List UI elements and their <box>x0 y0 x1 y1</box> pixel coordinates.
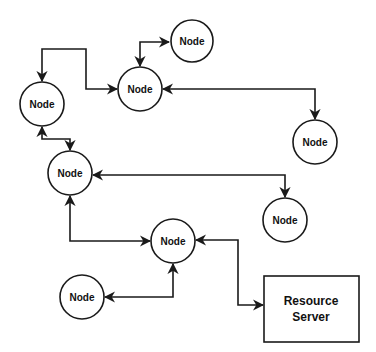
edge-center-resource-server <box>196 240 263 305</box>
resource-server: Resource Server <box>264 276 359 342</box>
node-label: Node <box>128 84 153 95</box>
node-label: Node <box>58 168 83 179</box>
node-upper-mid: Node <box>118 67 162 111</box>
edge-mid-left-mid-right <box>93 175 285 197</box>
node-bottom-left: Node <box>60 275 104 319</box>
node-center: Node <box>151 219 195 263</box>
server-box <box>264 276 359 342</box>
node-mid-left: Node <box>48 151 92 195</box>
node-label: Node <box>30 99 55 110</box>
node-label: Node <box>161 236 186 247</box>
node-mid-right: Node <box>263 198 307 242</box>
node-label: Node <box>70 292 95 303</box>
edge-left-upper-mid <box>42 49 117 89</box>
node-top: Node <box>171 20 213 62</box>
network-diagram: Node Node Node Node Node Node Node Node … <box>0 0 376 352</box>
node-label: Node <box>273 215 298 226</box>
node-label: Node <box>303 137 328 148</box>
edge-upper-mid-right <box>163 89 315 119</box>
edge-mid-left-center <box>70 196 150 241</box>
edge-left-mid-left <box>42 127 70 150</box>
edge-upper-mid-top <box>140 42 169 66</box>
node-right: Node <box>293 120 337 164</box>
edge-center-bottom-left <box>105 264 173 297</box>
server-label-line1: Resource <box>284 294 339 308</box>
node-label: Node <box>180 36 205 47</box>
server-label-line2: Server <box>292 310 330 324</box>
node-left: Node <box>20 82 64 126</box>
